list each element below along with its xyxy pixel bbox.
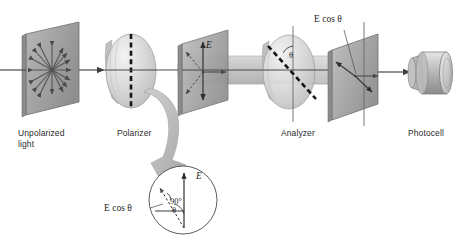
label-inset-theta: θ <box>172 205 176 215</box>
polarizer-disk <box>104 34 182 108</box>
label-analyzer: Analyzer <box>281 128 315 138</box>
unpolarized-light-plate <box>0 22 104 117</box>
figure-canvas <box>0 0 462 236</box>
label-unpolarized-light: Unpolarized light <box>18 128 64 149</box>
label-unpolarized-line1: Unpolarized <box>18 128 64 139</box>
label-inset-e-cos-theta: E cos θ <box>104 203 132 213</box>
photocell <box>408 52 453 94</box>
polarized-light-plate <box>178 30 228 116</box>
label-theta-analyzer: θ <box>289 50 293 60</box>
label-unpolarized-line2: light <box>18 139 64 150</box>
label-inset-e-text: E <box>196 171 202 181</box>
label-photocell: Photocell <box>408 128 444 138</box>
polarization-figure: Unpolarized light Polarizer Analyzer Pho… <box>0 0 462 236</box>
transmitted-light-plate <box>328 22 410 126</box>
label-e-cos-theta-top: E cos θ <box>314 14 342 24</box>
label-polarizer: Polarizer <box>117 128 151 138</box>
label-e-vector: E <box>206 40 212 50</box>
label-inset-e: E <box>196 171 202 181</box>
label-e-vector-text: E <box>206 40 212 50</box>
inset-circle <box>149 166 217 234</box>
